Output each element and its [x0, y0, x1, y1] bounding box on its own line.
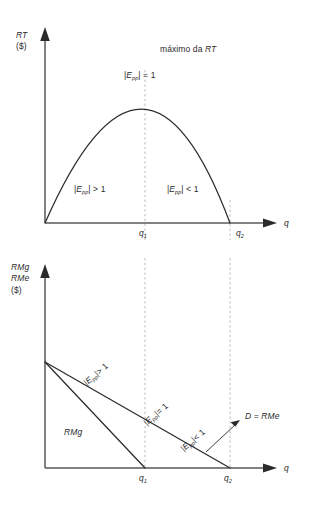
marginal-revenue-curve-label: RMg	[64, 427, 82, 438]
bottom-y-axis-label-line3: ($)	[11, 285, 22, 295]
bar-close: |	[88, 184, 90, 194]
top-xtick-q2-subscript: 2	[241, 233, 244, 239]
bottom-chart-marginal-average-revenue	[40, 264, 277, 473]
demand-label-pointer-arrowhead	[231, 420, 240, 427]
top-y-axis-label: RT ($)	[16, 30, 27, 53]
maximum-note-text: máximo da	[160, 44, 205, 54]
top-xtick-q1-subscript: 1	[144, 233, 147, 239]
top-xtick-q2: q2	[236, 228, 244, 240]
bottom-xtick-q1: q1	[139, 473, 147, 485]
top-chart-total-revenue	[40, 27, 277, 228]
maximum-total-revenue-note: máximo da RT	[160, 44, 216, 55]
maximum-note-rt: RT	[205, 44, 216, 54]
economics-revenue-elasticity-figure	[0, 0, 311, 510]
top-x-axis-arrowhead	[263, 218, 277, 227]
bottom-x-axis-label: q	[284, 463, 289, 474]
bottom-x-axis-arrowhead	[263, 463, 277, 472]
demand-label-pointer	[206, 424, 236, 452]
bottom-y-axis-label: RMg RMe ($)	[11, 262, 29, 296]
top-y-axis-label-line2: ($)	[16, 41, 27, 51]
bar-close: |	[181, 184, 183, 194]
top-elasticity-unit-label: |Epp| = 1	[124, 70, 155, 82]
bottom-xtick-q2-subscript: 2	[229, 478, 232, 484]
bottom-xtick-q1-subscript: 1	[144, 478, 147, 484]
bar-close: |	[138, 70, 140, 80]
elasticity-relation: > 1	[93, 184, 105, 194]
total-revenue-curve	[45, 109, 230, 223]
top-y-axis-label-line1: RT	[16, 30, 27, 40]
demand-line	[45, 362, 230, 468]
elasticity-relation: = 1	[143, 70, 155, 80]
top-xtick-q1: q1	[139, 228, 147, 240]
demand-curve-label: D = RMe	[245, 411, 279, 422]
top-y-axis-arrowhead	[40, 27, 50, 41]
top-elasticity-inelastic-label: |Epp| < 1	[167, 184, 198, 196]
bottom-y-axis-label-line1: RMg	[11, 262, 29, 272]
top-x-axis-label: q	[284, 218, 289, 229]
bottom-y-axis-label-line2: RMe	[11, 273, 29, 283]
top-elasticity-elastic-label: |Epp| > 1	[74, 184, 105, 196]
bottom-xtick-q2: q2	[224, 473, 232, 485]
elasticity-relation: < 1	[186, 184, 198, 194]
bottom-y-axis-arrowhead	[40, 264, 50, 278]
